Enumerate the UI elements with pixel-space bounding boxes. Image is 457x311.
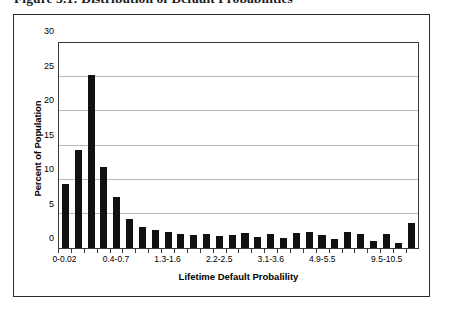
x-label-slot (71, 254, 84, 268)
bar (229, 235, 236, 248)
bar-slot (264, 43, 277, 248)
x-label-slot: 0.4-0.7 (110, 254, 123, 268)
bar (152, 230, 159, 248)
x-label-slot (329, 254, 342, 268)
plot-inner (59, 43, 418, 248)
bar-slot (354, 43, 367, 248)
bar (100, 167, 107, 248)
y-axis-tick-labels: 051015202530 (14, 42, 54, 249)
bar-slot (72, 43, 85, 248)
bar-slot (162, 43, 175, 248)
bar-slot (328, 43, 341, 248)
x-label-slot (238, 254, 251, 268)
bar-slot (174, 43, 187, 248)
bar-slot (341, 43, 354, 248)
bar (126, 219, 133, 248)
x-label-slot: 3.1-3.6 (264, 254, 277, 268)
x-tick-mark (290, 249, 291, 253)
bar-slot (226, 43, 239, 248)
x-tick-mark (71, 249, 72, 253)
bar-slot (316, 43, 329, 248)
x-label-slot: 0-0.02 (58, 254, 71, 268)
x-tick-mark (251, 249, 252, 253)
x-label-slot (277, 254, 290, 268)
x-label-slot (354, 254, 367, 268)
x-tick-mark (380, 249, 381, 253)
y-axis-tick-label: 15 (14, 130, 54, 140)
bar-slot (59, 43, 72, 248)
bar (395, 243, 402, 248)
bar-slot (110, 43, 123, 248)
bar (357, 234, 364, 248)
histogram-chart: Percent of Population 051015202530 0-0.0… (14, 15, 431, 298)
x-tick-mark (213, 249, 214, 253)
x-label-slot: 9.5-10.5 (380, 254, 393, 268)
bar (254, 237, 261, 248)
bar (139, 227, 146, 248)
x-tick-mark (316, 249, 317, 253)
x-tick-mark (226, 249, 227, 253)
bar-slot (187, 43, 200, 248)
bar-slot (213, 43, 226, 248)
bar (267, 234, 274, 248)
x-tick-mark (277, 249, 278, 253)
bar (318, 235, 325, 248)
x-tick-mark (406, 249, 407, 253)
x-label-slot: 4.9-5.5 (316, 254, 329, 268)
x-label-slot: 2.2-2.5 (213, 254, 226, 268)
x-tick-mark (174, 249, 175, 253)
x-label-slot (393, 254, 406, 268)
y-axis-tick-label: 25 (14, 61, 54, 71)
bar-slot (405, 43, 418, 248)
plot-area (58, 42, 419, 249)
x-tick-mark (303, 249, 304, 253)
bar-slot (200, 43, 213, 248)
x-tick-mark (393, 249, 394, 253)
bar (306, 232, 313, 248)
y-axis-tick-label: 20 (14, 95, 54, 105)
x-tick-mark (110, 249, 111, 253)
figure-frame: Percent of Population 051015202530 0-0.0… (13, 14, 430, 297)
bar (203, 234, 210, 248)
x-tick-mark (264, 249, 265, 253)
bar-slot (123, 43, 136, 248)
x-tick-mark (238, 249, 239, 253)
x-tick-mark (58, 249, 59, 253)
y-axis-tick-label: 5 (14, 199, 54, 209)
bar (62, 184, 69, 248)
bar-slot (303, 43, 316, 248)
figure-caption: Figure 3.1: Distribution of Default Prob… (14, 0, 293, 7)
bar (331, 239, 338, 248)
y-axis-tick-label: 10 (14, 164, 54, 174)
x-tick-mark (200, 249, 201, 253)
bar (113, 197, 120, 248)
bar (177, 234, 184, 248)
bar-slot (380, 43, 393, 248)
bar (344, 232, 351, 248)
x-tick-mark (329, 249, 330, 253)
x-tick-mark (97, 249, 98, 253)
x-label-slot: 1.3-1.6 (161, 254, 174, 268)
bar-slot (239, 43, 252, 248)
bar-slot (85, 43, 98, 248)
x-label-slot (226, 254, 239, 268)
x-label-slot (290, 254, 303, 268)
x-label-slot (84, 254, 97, 268)
bar-slot (367, 43, 380, 248)
bar (293, 233, 300, 248)
x-tick-mark (342, 249, 343, 253)
x-label-slot (122, 254, 135, 268)
x-tick-mark (354, 249, 355, 253)
bar-slot (393, 43, 406, 248)
x-tick-mark (135, 249, 136, 253)
bar (383, 234, 390, 248)
bar (370, 241, 377, 248)
x-label-slot (406, 254, 419, 268)
bar-slot (290, 43, 303, 248)
x-label-slot (135, 254, 148, 268)
bar-series (59, 43, 418, 248)
bar (216, 236, 223, 248)
x-label-slot (342, 254, 355, 268)
y-axis-tick-label: 30 (14, 26, 54, 36)
x-label-slot (187, 254, 200, 268)
